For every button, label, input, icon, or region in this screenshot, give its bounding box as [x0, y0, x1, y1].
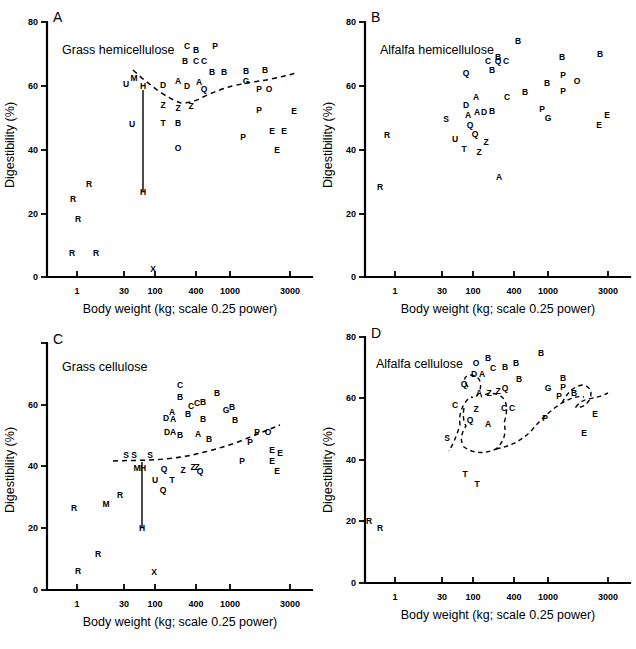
svg-text:C: C: [501, 403, 507, 413]
svg-text:E: E: [291, 106, 297, 116]
panel-title-a: Grass hemicellulose: [62, 43, 175, 57]
svg-text:O: O: [266, 84, 273, 94]
svg-text:A: A: [476, 388, 482, 398]
svg-text:P: P: [240, 132, 246, 142]
svg-text:X: X: [151, 567, 157, 577]
y-tick-20: 20: [28, 209, 38, 219]
x-tick-100: 100: [465, 286, 480, 296]
svg-text:A: A: [496, 172, 502, 182]
svg-text:C: C: [184, 41, 190, 51]
y-tick-40: 40: [346, 455, 356, 465]
axis-lines: [365, 337, 630, 583]
svg-text:S: S: [131, 450, 137, 460]
x-tick-1: 1: [392, 286, 397, 296]
svg-text:A: A: [474, 107, 480, 117]
svg-text:T: T: [461, 144, 467, 154]
svg-text:G: G: [545, 383, 552, 393]
svg-text:B: B: [538, 348, 544, 358]
svg-text:D: D: [463, 100, 469, 110]
x-tick-3000: 3000: [280, 286, 300, 296]
svg-text:E: E: [274, 145, 280, 155]
svg-text:R: R: [93, 248, 99, 258]
svg-text:S: S: [123, 450, 129, 460]
svg-text:E: E: [592, 409, 598, 419]
svg-text:A: A: [465, 110, 471, 120]
panel-a-plot: Digestibility (%) 80 60 40 20 0: [0, 0, 318, 324]
x-tick-1: 1: [392, 592, 397, 602]
svg-text:H: H: [140, 463, 146, 473]
svg-text:O: O: [574, 76, 581, 86]
figure-root: Digestibility (%) 80 60 40 20 0: [0, 0, 636, 649]
svg-text:Q: Q: [463, 68, 470, 78]
svg-text:Z: Z: [160, 100, 165, 110]
svg-text:C: C: [504, 92, 510, 102]
svg-text:Q: Q: [472, 129, 479, 139]
x-tick-30: 30: [119, 599, 129, 609]
svg-text:Z: Z: [188, 101, 193, 111]
svg-text:Z: Z: [476, 147, 481, 157]
svg-text:D: D: [160, 80, 166, 90]
svg-text:Q: Q: [201, 84, 208, 94]
x-tick-3000: 3000: [598, 286, 618, 296]
x-tick-1000: 1000: [538, 286, 558, 296]
x-tick-100: 100: [147, 599, 162, 609]
svg-text:P: P: [247, 437, 253, 447]
x-tick-1000: 1000: [220, 286, 240, 296]
svg-text:B: B: [560, 373, 566, 383]
y-axis-label: Digestibility (%): [3, 102, 17, 188]
svg-text:H: H: [140, 81, 146, 91]
svg-text:R: R: [70, 194, 76, 204]
svg-text:Q: Q: [197, 466, 204, 476]
panel-letter-c: C: [53, 331, 63, 347]
x-axis-label: Body weight (kg; scale 0.25 power): [83, 615, 278, 629]
svg-text:B: B: [206, 434, 212, 444]
svg-text:O: O: [265, 427, 272, 437]
data-points-a: R R R R R X U M H U H D A D A Q Z Z Z T: [69, 41, 297, 274]
svg-text:A: A: [485, 419, 491, 429]
svg-text:Z: Z: [180, 465, 185, 475]
svg-text:R: R: [377, 523, 383, 533]
svg-text:P: P: [556, 391, 562, 401]
svg-text:B: B: [243, 66, 249, 76]
x-tick-3000: 3000: [598, 592, 618, 602]
svg-text:R: R: [95, 549, 101, 559]
x-tick-100: 100: [465, 592, 480, 602]
svg-text:B: B: [177, 392, 183, 402]
svg-text:T: T: [169, 475, 175, 485]
data-points-c: R M R R R X S S S M H H U Q Q T Z Z Z Q: [71, 380, 283, 577]
x-tick-400: 400: [188, 599, 203, 609]
svg-text:B: B: [182, 56, 188, 66]
svg-text:E: E: [269, 456, 275, 466]
svg-text:B: B: [214, 388, 220, 398]
svg-text:B: B: [489, 106, 495, 116]
svg-text:R: R: [75, 566, 81, 576]
svg-text:B: B: [232, 415, 238, 425]
y-tick-60: 60: [28, 81, 38, 91]
svg-text:B: B: [515, 36, 521, 46]
svg-text:P: P: [254, 427, 260, 437]
svg-text:E: E: [281, 126, 287, 136]
svg-text:C: C: [503, 56, 509, 66]
svg-text:E: E: [274, 466, 280, 476]
svg-text:H: H: [140, 187, 146, 197]
svg-text:C: C: [490, 363, 496, 373]
svg-text:A: A: [479, 369, 485, 379]
svg-text:Z: Z: [473, 404, 478, 414]
svg-text:T: T: [160, 118, 166, 128]
panel-title-b: Alfalfa hemicellulose: [380, 43, 494, 57]
svg-text:U: U: [129, 119, 135, 129]
svg-text:S: S: [444, 433, 450, 443]
svg-text:D: D: [471, 369, 477, 379]
svg-text:A: A: [473, 92, 479, 102]
x-tick-30: 30: [437, 592, 447, 602]
svg-text:B: B: [559, 52, 565, 62]
svg-text:G: G: [243, 76, 250, 86]
x-axis-label: Body weight (kg; scale 0.25 power): [83, 302, 278, 316]
svg-text:B: B: [221, 67, 227, 77]
x-tick-30: 30: [437, 286, 447, 296]
svg-text:Q: Q: [160, 485, 167, 495]
svg-text:A: A: [170, 427, 176, 437]
y-axis-label: Digestibility (%): [321, 102, 335, 188]
panel-letter-d: D: [371, 325, 381, 341]
svg-text:B: B: [489, 65, 495, 75]
